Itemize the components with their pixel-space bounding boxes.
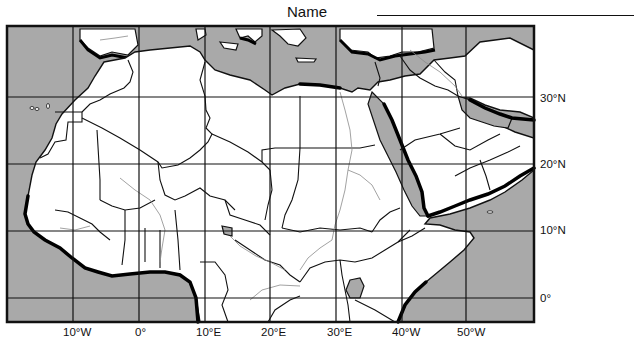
lon-label-10e: 10°E: [196, 326, 221, 338]
lat-label-30n: 30°N: [540, 92, 566, 104]
lat-label-20n: 20°N: [540, 158, 566, 170]
lon-label-40w: 40°W: [392, 326, 420, 338]
lon-label-20e: 20°E: [261, 326, 286, 338]
lat-label-0: 0°: [540, 292, 551, 304]
lon-label-10w: 10°W: [63, 326, 91, 338]
lon-label-50w: 50°W: [457, 326, 485, 338]
lat-label-10n: 10°N: [540, 224, 566, 236]
lon-label-30e: 30°E: [327, 326, 352, 338]
lon-label-0: 0°: [135, 326, 146, 338]
